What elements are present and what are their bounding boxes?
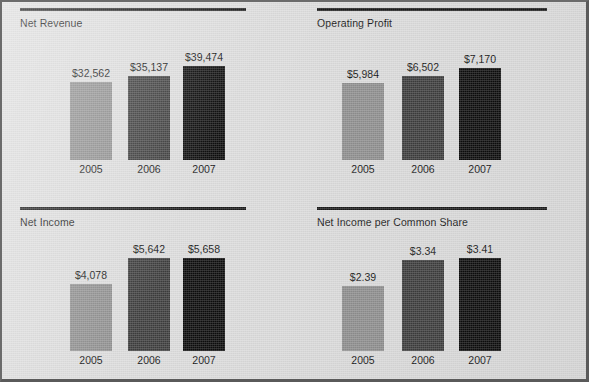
bar-2005	[70, 82, 112, 160]
bar-value-label-2005: $4,078	[75, 269, 107, 281]
chart-panel-net-revenue: Net Revenue $32,5622005$35,1372006$39,47…	[20, 8, 246, 170]
bar-category-label-2007: 2007	[192, 163, 215, 175]
bar-group-2007: $5,6582007	[183, 258, 225, 351]
plot-area-net-income: $4,0782005$5,6422006$5,6582007	[20, 207, 246, 369]
bar-2006	[128, 76, 170, 160]
bar-2007	[183, 258, 225, 351]
chart-panel-net-income-per-common-share: Net Income per Common Share $2.392005$3.…	[317, 207, 547, 369]
bar-group-2005: $32,5622005	[70, 82, 112, 160]
bar-2006	[402, 260, 444, 351]
bar-value-label-2007: $3.41	[467, 243, 493, 255]
bar-category-label-2006: 2006	[411, 163, 434, 175]
bar-value-label-2007: $5,658	[188, 243, 220, 255]
bar-2007	[459, 68, 501, 160]
bar-2006	[128, 258, 170, 351]
bar-group-2007: $39,4742007	[183, 66, 225, 160]
financial-highlights-figure: Net Revenue $32,5622005$35,1372006$39,47…	[0, 0, 589, 382]
bar-category-label-2006: 2006	[137, 163, 160, 175]
bar-category-label-2007: 2007	[468, 354, 491, 366]
bar-value-label-2006: $3.34	[410, 245, 436, 257]
bar-2005	[70, 284, 112, 351]
chart-panel-operating-profit: Operating Profit $5,9842005$6,5022006$7,…	[317, 8, 547, 170]
plot-area-net-income-per-common-share: $2.392005$3.342006$3.412007	[317, 207, 547, 369]
bar-2007	[459, 258, 501, 351]
bar-value-label-2006: $35,137	[130, 61, 168, 73]
bar-category-label-2005: 2005	[351, 354, 374, 366]
bar-value-label-2005: $5,984	[347, 68, 379, 80]
bar-group-2006: $3.342006	[402, 260, 444, 351]
bar-value-label-2007: $39,474	[185, 51, 223, 63]
plot-area-net-revenue: $32,5622005$35,1372006$39,4742007	[20, 8, 246, 170]
bar-group-2007: $7,1702007	[459, 68, 501, 160]
bar-group-2005: $5,9842005	[342, 83, 384, 160]
bar-value-label-2005: $32,562	[72, 67, 110, 79]
bar-category-label-2005: 2005	[351, 163, 374, 175]
bar-value-label-2006: $5,642	[133, 243, 165, 255]
bar-group-2007: $3.412007	[459, 258, 501, 351]
bar-value-label-2005: $2.39	[350, 271, 376, 283]
bar-category-label-2007: 2007	[192, 354, 215, 366]
bar-group-2005: $4,0782005	[70, 284, 112, 351]
bar-category-label-2005: 2005	[79, 163, 102, 175]
bar-category-label-2006: 2006	[137, 354, 160, 366]
bar-group-2005: $2.392005	[342, 286, 384, 351]
bar-group-2006: $6,5022006	[402, 76, 444, 160]
bar-value-label-2006: $6,502	[407, 61, 439, 73]
bar-group-2006: $35,1372006	[128, 76, 170, 160]
bar-category-label-2007: 2007	[468, 163, 491, 175]
bar-2007	[183, 66, 225, 160]
bar-2005	[342, 286, 384, 351]
bar-value-label-2007: $7,170	[464, 53, 496, 65]
bar-2005	[342, 83, 384, 160]
bar-category-label-2006: 2006	[411, 354, 434, 366]
plot-area-operating-profit: $5,9842005$6,5022006$7,1702007	[317, 8, 547, 170]
bar-group-2006: $5,6422006	[128, 258, 170, 351]
bar-2006	[402, 76, 444, 160]
chart-panel-net-income: Net Income $4,0782005$5,6422006$5,658200…	[20, 207, 246, 369]
bar-category-label-2005: 2005	[79, 354, 102, 366]
